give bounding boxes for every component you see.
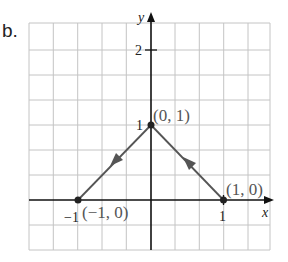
direction-arrow-right-icon — [183, 157, 196, 170]
point-label-0-1: (0, 1) — [153, 106, 190, 125]
point-neg1-0 — [75, 197, 82, 204]
y-tick-1: 1 — [136, 118, 143, 133]
y-tick-2: 2 — [135, 43, 142, 58]
x-axis-arrow-icon — [264, 196, 274, 204]
point-label-neg1-0: (−1, 0) — [82, 203, 128, 222]
x-axis-label: x — [261, 205, 269, 220]
y-axis-label: y — [136, 10, 145, 25]
graph: y x 2 1 1 −1 (0, 1) (1, 0) (−1, 0) — [0, 0, 288, 262]
x-tick-neg1: −1 — [64, 210, 79, 225]
point-label-1-0: (1, 0) — [226, 180, 263, 199]
y-axis-arrow-icon — [147, 12, 155, 22]
x-tick-1: 1 — [219, 209, 226, 224]
